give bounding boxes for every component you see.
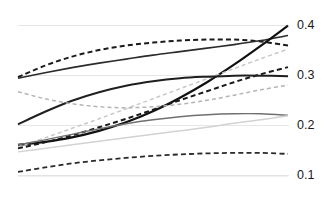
series-line xyxy=(18,85,288,108)
y-tick-label: 0.3 xyxy=(297,69,315,82)
series-line xyxy=(18,49,288,147)
series-group xyxy=(18,26,288,176)
series-line xyxy=(18,153,288,172)
y-tick-label: 0.1 xyxy=(297,169,315,182)
y-tick-label: 0.4 xyxy=(297,19,315,32)
series-line xyxy=(18,67,288,148)
series-line xyxy=(18,39,288,77)
plot-area xyxy=(0,0,325,221)
series-line xyxy=(18,76,288,125)
line-chart: 0.40.30.20.1 xyxy=(0,0,325,221)
y-tick-label: 0.2 xyxy=(297,119,315,132)
